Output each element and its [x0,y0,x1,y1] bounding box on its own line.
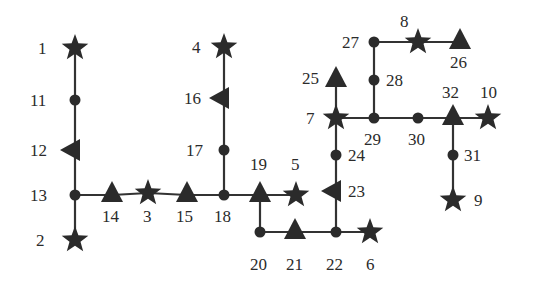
bus-20-circle-icon [255,227,266,238]
bus-label-23: 23 [348,182,365,201]
bus-label-27: 27 [342,33,360,52]
bus-label-7: 7 [306,109,315,128]
bus-label-3: 3 [143,207,152,226]
bus-17-circle-icon [219,145,230,156]
bus-label-19: 19 [250,155,267,174]
bus-19-triangle-icon [249,181,271,202]
bus-label-14: 14 [102,207,120,226]
bus-9-star-icon [440,186,467,211]
bus-label-25: 25 [302,69,319,88]
bus-label-21: 21 [286,255,303,274]
bus-15-triangle-icon [176,181,198,202]
bus-27-circle-icon [369,37,380,48]
bus-12-triangle-left-icon [60,139,80,161]
bus-label-15: 15 [176,207,193,226]
bus-label-18: 18 [214,207,231,226]
bus-label-10: 10 [480,83,497,102]
bus-23-triangle-left-icon [321,180,341,202]
bus-label-11: 11 [30,91,46,110]
bus-13-circle-icon [70,190,81,201]
bus-24-circle-icon [331,150,342,161]
bus-label-5: 5 [291,155,300,174]
bus-label-2: 2 [36,231,45,250]
bus-21-triangle-icon [284,218,306,239]
bus-22-circle-icon [331,227,342,238]
bus-label-20: 20 [250,255,267,274]
bus-label-32: 32 [442,83,459,102]
bus-label-6: 6 [366,255,375,274]
bus-label-4: 4 [192,38,201,57]
bus-29-circle-icon [369,113,380,124]
bus-label-17: 17 [186,141,204,160]
bus-18-circle-icon [219,190,230,201]
node-layer [60,28,501,251]
bus-label-29: 29 [364,130,381,149]
bus-label-31: 31 [464,146,481,165]
bus-31-circle-icon [448,150,459,161]
bus-label-13: 13 [30,186,47,205]
bus-label-22: 22 [326,255,343,274]
bus-16-triangle-left-icon [209,87,229,109]
bus-label-16: 16 [184,89,201,108]
bus-32-triangle-icon [442,104,464,125]
bus-11-circle-icon [70,95,81,106]
bus-3-star-icon [135,179,162,204]
bus-label-8: 8 [400,12,409,31]
bus-10-star-icon [475,104,502,129]
bus-label-28: 28 [386,71,403,90]
bus-2-star-icon [62,226,89,251]
bus-8-star-icon [405,28,432,53]
bus-label-12: 12 [30,141,47,160]
bus-label-26: 26 [450,53,467,72]
bus-label-24: 24 [348,146,366,165]
bus-label-9: 9 [474,191,483,210]
bus-6-star-icon [357,218,384,243]
network-diagram: 1111213214315184161719520212262324725278… [0,0,534,282]
bus-30-circle-icon [413,113,424,124]
edge-layer [75,42,488,240]
bus-5-star-icon [283,181,310,206]
bus-26-triangle-icon [449,28,471,49]
bus-label-30: 30 [408,130,425,149]
bus-14-triangle-icon [101,181,123,202]
bus-25-triangle-icon [325,66,347,87]
bus-28-circle-icon [369,75,380,86]
bus-label-1: 1 [38,39,47,58]
